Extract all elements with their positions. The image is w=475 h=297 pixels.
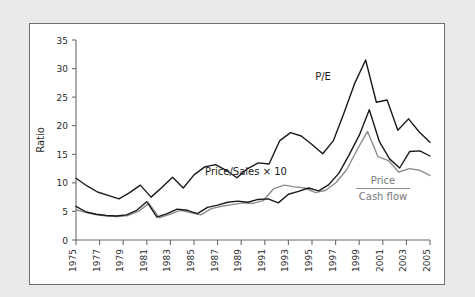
x-tick-label: 1977 — [92, 249, 102, 272]
x-tick-label: 1995 — [304, 249, 314, 272]
x-tick-label: 1999 — [351, 249, 361, 272]
x-tick-label: 1993 — [280, 249, 290, 272]
y-tick-label: 10 — [57, 178, 69, 188]
x-tick-label: 1981 — [139, 249, 149, 272]
y-tick-label: 0 — [62, 236, 68, 246]
x-tick-label: 1979 — [115, 249, 125, 272]
y-tick-label: 15 — [57, 150, 68, 160]
ratio-line-chart: 0 5 10 15 20 25 30 35 Ratio — [30, 24, 444, 284]
x-tick-label: 2005 — [422, 249, 432, 272]
y-tick-label: 20 — [57, 121, 69, 131]
x-tick-label: 2003 — [398, 249, 408, 272]
annotation-pcf-denominator: Cash flow — [359, 191, 407, 202]
x-tick-label: 1975 — [68, 249, 78, 272]
annotation-pcf-numerator: Price — [371, 175, 395, 186]
annotation-price-cash-flow: Price Cash flow — [356, 175, 410, 202]
y-tick-label: 30 — [57, 64, 69, 74]
x-tick-label: 1991 — [257, 249, 267, 272]
plot-frame: 0 5 10 15 20 25 30 35 Ratio — [29, 23, 445, 285]
y-tick-label: 25 — [57, 93, 68, 103]
annotation-pe: P/E — [315, 71, 331, 82]
y-tick-label: 35 — [57, 36, 68, 46]
x-tick-label: 1983 — [162, 249, 172, 272]
x-tick-label: 1989 — [233, 249, 243, 272]
x-tick-label: 1985 — [186, 249, 196, 272]
x-tick-labels: 1975 1977 1979 1981 1983 1985 1987 1989 … — [68, 249, 432, 272]
x-tick-label: 2001 — [375, 249, 385, 272]
x-tick-marks — [76, 240, 430, 245]
y-axis-title: Ratio — [35, 127, 46, 153]
x-tick-label: 1987 — [210, 249, 220, 272]
y-tick-labels: 0 5 10 15 20 25 30 35 — [57, 36, 69, 246]
x-tick-label: 1997 — [328, 249, 338, 272]
y-tick-label: 5 — [62, 207, 68, 217]
figure-canvas: 0 5 10 15 20 25 30 35 Ratio — [0, 0, 475, 297]
annotation-price-sales: Price/Sales × 10 — [205, 166, 287, 177]
